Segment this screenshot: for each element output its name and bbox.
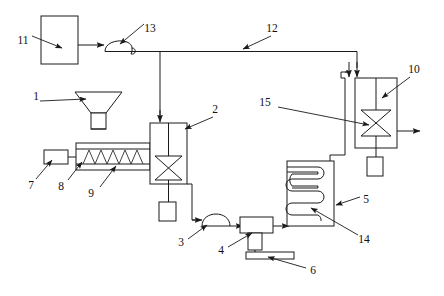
process-flow-diagram: 1 2 3 4 5 6 7 8 9 10 11 12 13 14 15 [0,0,444,296]
leader-8 [68,162,82,180]
top-feed-line [133,52,357,123]
callout-number-1: 1 [33,90,39,102]
callout-number-2: 2 [212,103,218,115]
callout-number-7: 7 [28,179,34,191]
extruder-barrel [76,143,150,170]
callout-number-14: 14 [358,233,370,245]
main-reactor-base [159,202,176,221]
callout-number-10: 10 [408,63,420,75]
tee-fitting [240,217,273,256]
reactor-to-pump-line [187,184,199,220]
callout-number-8: 8 [58,180,64,192]
callout-number-11: 11 [17,34,28,46]
supply-tank [41,16,78,64]
leader-3 [188,225,207,239]
heat-exchanger-shell [287,161,334,226]
leader-1 [40,99,86,101]
secondary-reactor-base [367,157,383,176]
callout-number-6: 6 [310,264,316,276]
pump-upper [105,41,135,54]
hopper [75,92,122,129]
callout-number-12: 12 [266,22,278,34]
callout-number-3: 3 [178,236,184,248]
leader-2 [185,117,213,129]
diagram-canvas: 1 2 3 4 5 6 7 8 9 10 11 12 13 14 15 [0,0,444,296]
callout-number-9: 9 [88,187,94,199]
leader-13 [120,24,144,44]
drive-motor [44,150,68,164]
callout-number-15: 15 [259,96,271,108]
callout-number-4: 4 [218,244,224,256]
leader-5 [336,197,360,205]
leader-12 [243,36,271,49]
pump-lower [202,214,230,226]
callout-number-5: 5 [363,193,369,205]
callout-number-13: 13 [144,22,156,34]
